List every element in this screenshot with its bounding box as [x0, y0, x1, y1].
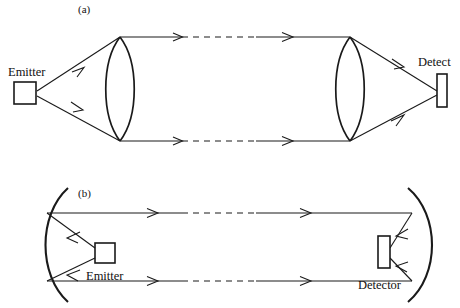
optics-ray-diagram: (a) Emitter — [0, 0, 460, 308]
detector-box-b — [378, 236, 390, 268]
detector-label-b: Detector — [358, 278, 402, 292]
detector-box — [437, 74, 447, 107]
emitter-label: Emitter — [8, 65, 46, 79]
emitter-box-b — [95, 243, 115, 263]
canvas-background — [0, 0, 460, 308]
detector-label: Detect — [418, 55, 451, 69]
panel-b-label: (b) — [78, 187, 91, 200]
panel-a-label: (a) — [78, 3, 91, 16]
emitter-box — [14, 82, 36, 104]
